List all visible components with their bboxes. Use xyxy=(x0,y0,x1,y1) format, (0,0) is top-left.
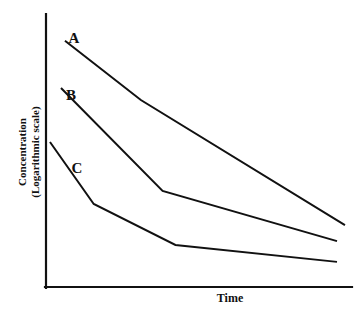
chart-background xyxy=(0,0,364,312)
y-axis-title-line1: Concentration xyxy=(16,118,28,186)
concentration-vs-time-chart: A B C Time Concentration (Logarithmic sc… xyxy=(0,0,364,312)
x-axis-title: Time xyxy=(217,291,244,305)
chart-figure: A B C Time Concentration (Logarithmic sc… xyxy=(0,0,364,312)
series-label-b: B xyxy=(66,87,76,103)
series-label-a: A xyxy=(69,30,80,46)
series-label-c: C xyxy=(72,160,83,176)
y-axis-title-line2: (Logarithmic scale) xyxy=(29,106,42,198)
